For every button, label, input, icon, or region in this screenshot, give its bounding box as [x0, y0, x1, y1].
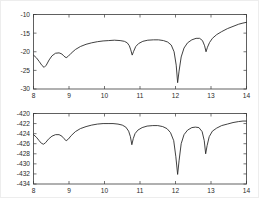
- yticklabel-top-2: -20: [20, 48, 30, 55]
- subplot-bottom: 891011121314-434-432-430-428-426-424-422…: [17, 110, 251, 194]
- yticklabel-bottom-1: -432: [17, 170, 31, 177]
- yticklabel-bottom-3: -428: [17, 150, 31, 157]
- yticklabel-bottom-0: -434: [17, 180, 31, 187]
- figure-canvas: 891011121314-30-25-20-15-10891011121314-…: [0, 0, 259, 198]
- axes-frame-bottom: [34, 114, 247, 185]
- xticklabel-bottom-2: 10: [101, 187, 109, 194]
- yticklabel-bottom-2: -430: [17, 160, 31, 167]
- yticklabel-top-4: -10: [20, 11, 30, 18]
- xticklabel-bottom-0: 8: [32, 187, 36, 194]
- xticklabel-top-3: 11: [137, 92, 144, 99]
- curve-top-top-response: [34, 22, 247, 82]
- xticklabel-bottom-3: 11: [137, 187, 144, 194]
- yticklabel-top-1: -25: [20, 67, 30, 74]
- xticklabel-top-4: 12: [172, 92, 180, 99]
- xticklabel-bottom-1: 9: [67, 187, 71, 194]
- xticklabel-top-1: 9: [67, 92, 71, 99]
- xticklabel-top-5: 13: [207, 92, 215, 99]
- xticklabel-top-6: 14: [243, 92, 251, 99]
- axes-frame-top: [34, 15, 247, 90]
- subplot-top: 891011121314-30-25-20-15-10: [20, 11, 250, 99]
- xticklabel-top-2: 10: [101, 92, 109, 99]
- plots-svg: 891011121314-30-25-20-15-10891011121314-…: [1, 1, 259, 198]
- xticklabel-bottom-5: 13: [207, 187, 215, 194]
- xticklabel-bottom-4: 12: [172, 187, 180, 194]
- yticklabel-bottom-7: -420: [17, 110, 31, 117]
- yticklabel-bottom-6: -422: [17, 120, 31, 127]
- yticklabel-top-0: -30: [20, 85, 30, 92]
- yticklabel-bottom-5: -424: [17, 130, 31, 137]
- yticklabel-top-3: -15: [20, 30, 30, 37]
- xticklabel-top-0: 8: [32, 92, 36, 99]
- xticklabel-bottom-6: 14: [243, 187, 251, 194]
- yticklabel-bottom-4: -426: [17, 140, 31, 147]
- curve-bottom-bottom-response: [34, 121, 247, 174]
